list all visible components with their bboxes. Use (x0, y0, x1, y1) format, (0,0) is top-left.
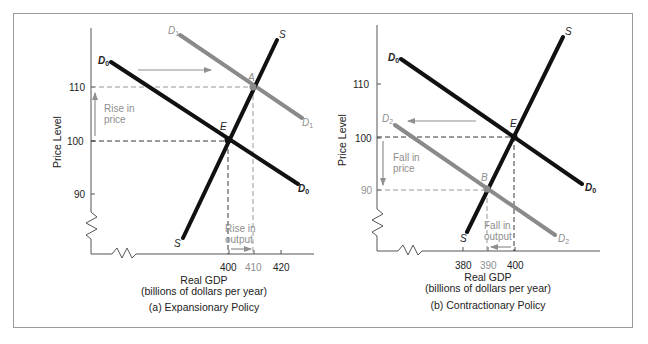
rise-in-price-label: Rise inprice (104, 103, 135, 125)
curve-label-s-bottom: S (174, 238, 181, 249)
fall-in-price-label: Fall inprice (393, 152, 420, 174)
panel-caption: (b) Contractionary Policy (424, 300, 552, 311)
x-axis-label: Real GDP(billions of dollars per year) (424, 272, 552, 294)
y-tick-110: 110 (69, 82, 85, 93)
curve-label-s-bottom: S (460, 233, 467, 244)
demand-curve-d0 (111, 62, 298, 184)
curve-label-d2-top: D2 (382, 113, 393, 127)
x-axis-label: Real GDP(billions of dollars per year) (140, 275, 268, 297)
y-tick-90: 90 (361, 185, 372, 196)
x-tick-390: 390 (480, 260, 497, 271)
panel-caption: (a) Expansionary Policy (140, 302, 268, 313)
curve-label-s-top: S (279, 29, 286, 40)
x-tick-400: 400 (220, 262, 237, 273)
point-label-e: E (510, 118, 517, 129)
curve-label-d0-top: D0 (388, 52, 399, 66)
curve-label-d2-bottom: D2 (558, 233, 569, 247)
curve-label-s-top: S (565, 26, 572, 37)
demand-curve-d1 (180, 35, 302, 118)
curve-label-d1-top: D1 (168, 25, 179, 39)
y-tick-100: 100 (355, 133, 372, 144)
y-axis-label: Price Level (52, 116, 63, 168)
point-label-b: B (481, 172, 488, 183)
equilibrium-point-e (511, 134, 518, 141)
rise-in-output-label: Rise inoutput (225, 223, 256, 245)
fall-in-output-label: Fall inoutput (484, 220, 512, 242)
panel-a-expansionary (86, 28, 314, 258)
y-tick-110: 110 (353, 79, 369, 90)
equilibrium-point-b (484, 186, 491, 193)
curve-label-d0-bottom: D0 (585, 182, 596, 196)
y-tick-100: 100 (67, 136, 84, 147)
x-tick-420: 420 (273, 262, 290, 273)
curve-label-d0-top: D0 (98, 55, 109, 69)
point-label-e: E (220, 121, 227, 132)
equilibrium-point-e (225, 137, 232, 144)
x-tick-380: 380 (455, 260, 472, 271)
x-tick-400: 400 (507, 260, 524, 271)
curve-label-d1-bottom: D1 (302, 117, 313, 131)
x-tick-410: 410 (245, 262, 262, 273)
y-tick-90: 90 (74, 189, 85, 200)
y-axis-label: Price Level (337, 114, 348, 166)
point-label-a: A (248, 72, 255, 83)
equilibrium-point-a (250, 84, 257, 91)
curve-label-d0-bottom: D0 (298, 183, 309, 197)
